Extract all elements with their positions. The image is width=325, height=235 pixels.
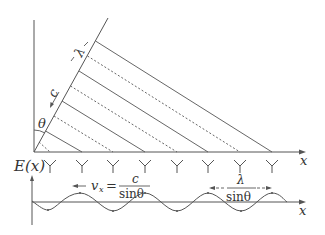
vx-label: v bbox=[91, 178, 99, 193]
period-formula: λ sinθ bbox=[209, 173, 272, 204]
vx-numerator: c bbox=[132, 172, 139, 186]
antenna-icon bbox=[171, 160, 183, 173]
antenna-icon bbox=[107, 160, 119, 173]
phase-velocity-formula: v x = c sinθ bbox=[72, 172, 150, 201]
antenna-icon bbox=[44, 160, 56, 173]
incident-direction-line bbox=[34, 18, 108, 152]
antenna-icon bbox=[139, 160, 151, 173]
c-arrow-head-icon bbox=[50, 102, 54, 108]
vx-subscript: x bbox=[99, 185, 104, 194]
antenna-icon bbox=[202, 160, 214, 173]
antenna-icon bbox=[266, 160, 278, 173]
wavefront-dashed bbox=[39, 142, 50, 152]
wavefront-solid bbox=[62, 101, 145, 152]
wavefront-dashed bbox=[54, 116, 113, 152]
wavefront-solid bbox=[96, 41, 273, 152]
wavefront-solid bbox=[46, 131, 83, 152]
x-axis-top-label: x bbox=[300, 153, 308, 168]
upper-panel bbox=[34, 18, 306, 155]
antenna-icon bbox=[76, 160, 88, 173]
vx-equals: = bbox=[106, 178, 117, 193]
lambda-arrow-upper bbox=[84, 42, 88, 46]
diagram-canvas: λ c θ x E(x) v x = c sinθ λ sinθ bbox=[0, 0, 325, 235]
theta-label: θ bbox=[38, 116, 46, 131]
antenna-array bbox=[44, 160, 278, 173]
wavefront-dashed bbox=[71, 86, 178, 152]
E-axis-label: E(x) bbox=[13, 157, 45, 175]
wavefront-solid bbox=[79, 71, 208, 152]
c-label: c bbox=[45, 86, 62, 100]
lower-panel bbox=[30, 175, 306, 225]
E-axis-arrow-icon bbox=[30, 175, 34, 181]
wavefront-dashed bbox=[88, 56, 241, 152]
x-axis-bottom-label: x bbox=[299, 203, 307, 218]
period-numerator: λ bbox=[236, 173, 245, 187]
lambda-arrow-lower bbox=[71, 57, 74, 61]
antenna-icon bbox=[234, 160, 246, 173]
